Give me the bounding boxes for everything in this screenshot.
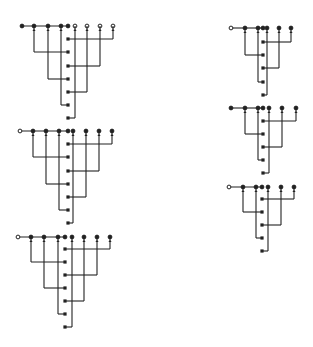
- output-terminal: [261, 66, 264, 69]
- output-terminal: [66, 221, 69, 224]
- output-terminal: [261, 158, 264, 161]
- output-terminal: [66, 155, 69, 158]
- output-terminal: [66, 37, 69, 40]
- input-node: [229, 106, 233, 110]
- output-terminal: [260, 197, 263, 200]
- output-terminal: [66, 208, 69, 211]
- output-terminal: [66, 90, 69, 93]
- figure-fig-left-3: [16, 235, 112, 329]
- output-terminal: [66, 142, 69, 145]
- figure-fig-right-1: [229, 26, 293, 97]
- output-terminal: [260, 223, 263, 226]
- output-terminal: [66, 103, 69, 106]
- junction-node: [261, 106, 265, 110]
- figure-fig-left-1: [20, 24, 115, 120]
- output-terminal: [66, 77, 69, 80]
- input-node: [18, 129, 22, 133]
- output-terminal: [261, 40, 264, 43]
- figure-fig-right-3: [227, 185, 296, 252]
- output-terminal: [63, 299, 66, 302]
- figure-fig-right-2: [229, 106, 298, 174]
- output-terminal: [66, 64, 69, 67]
- output-terminal: [66, 169, 69, 172]
- output-terminal: [261, 80, 264, 83]
- output-terminal: [63, 312, 66, 315]
- output-terminal: [63, 260, 66, 263]
- output-terminal: [261, 119, 264, 122]
- junction-node: [66, 24, 70, 28]
- output-terminal: [63, 273, 66, 276]
- output-terminal: [63, 247, 66, 250]
- output-terminal: [66, 116, 69, 119]
- output-terminal: [261, 171, 264, 174]
- input-node: [16, 235, 20, 239]
- output-terminal: [66, 182, 69, 185]
- output-terminal: [260, 210, 263, 213]
- junction-node: [66, 129, 70, 133]
- junction-node: [261, 26, 265, 30]
- output-terminal: [63, 325, 66, 328]
- figure-fig-left-2: [18, 129, 114, 224]
- junction-node: [63, 235, 67, 239]
- output-terminal: [261, 93, 264, 96]
- diagram-canvas: [0, 0, 313, 347]
- input-node: [20, 24, 24, 28]
- output-terminal: [66, 50, 69, 53]
- input-node: [227, 185, 231, 189]
- junction-node: [260, 185, 264, 189]
- output-terminal: [260, 236, 263, 239]
- output-terminal: [261, 53, 264, 56]
- output-terminal: [260, 249, 263, 252]
- output-terminal: [261, 145, 264, 148]
- output-terminal: [261, 132, 264, 135]
- input-node: [229, 26, 233, 30]
- output-terminal: [66, 195, 69, 198]
- output-terminal: [63, 286, 66, 289]
